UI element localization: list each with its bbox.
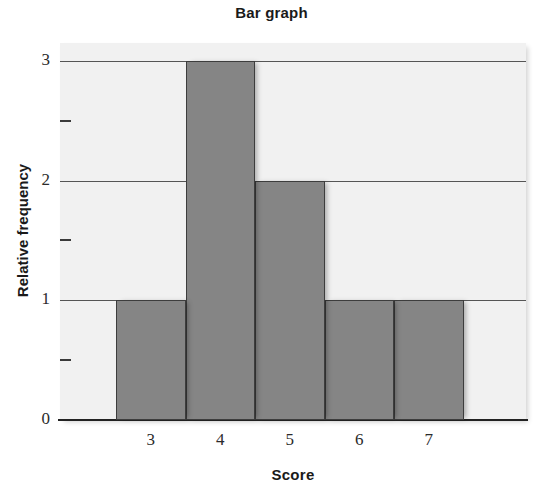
gridline-y-3	[60, 61, 526, 62]
bar-chart-figure: Bar graph Relative frequency Score 01233…	[0, 0, 543, 501]
y-tick-label-0: 0	[16, 409, 50, 429]
bar-4	[186, 61, 256, 420]
minor-tick-y-2.5	[60, 120, 71, 122]
bar-5	[255, 181, 325, 420]
bar-7	[394, 300, 464, 420]
x-tick-label-5: 5	[270, 430, 310, 450]
x-tick-label-4: 4	[200, 430, 240, 450]
x-tick-label-6: 6	[339, 430, 379, 450]
y-tick-label-3: 3	[16, 50, 50, 70]
minor-tick-y-0.5	[60, 359, 71, 361]
chart-title: Bar graph	[0, 4, 543, 21]
x-tick-label-3: 3	[131, 430, 171, 450]
y-tick-label-2: 2	[16, 170, 50, 190]
plot-area	[60, 43, 526, 420]
x-axis-label: Score	[60, 466, 526, 483]
minor-tick-y-1.5	[60, 239, 71, 241]
bar-6	[325, 300, 395, 420]
bar-3	[116, 300, 186, 420]
x-tick-label-7: 7	[409, 430, 449, 450]
y-tick-label-1: 1	[16, 289, 50, 309]
